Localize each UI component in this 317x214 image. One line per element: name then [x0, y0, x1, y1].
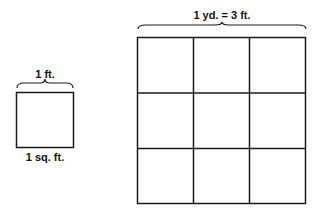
big-grid — [138, 38, 306, 204]
small-area-label: 1 sq. ft. — [26, 151, 65, 163]
small-side-label: 1 ft. — [35, 68, 55, 80]
big-brace — [138, 22, 306, 29]
small-brace — [17, 79, 73, 88]
big-side-label: 1 yd. = 3 ft. — [193, 9, 250, 21]
small-square — [17, 93, 74, 148]
diagram-canvas — [0, 0, 317, 214]
